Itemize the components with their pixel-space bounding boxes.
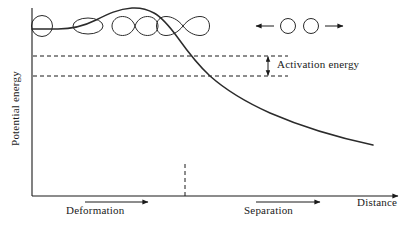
shape-separated-pair-icon bbox=[256, 19, 343, 34]
potential-energy-figure: Potential energy Distance Activation ene… bbox=[0, 0, 409, 229]
axes bbox=[32, 8, 398, 196]
shape-figure-eight-icon bbox=[157, 17, 210, 36]
x-axis-label: Distance bbox=[357, 197, 397, 208]
y-axis-label: Potential energy bbox=[10, 63, 21, 155]
shape-peanut-icon bbox=[112, 17, 158, 36]
separation-label: Separation bbox=[244, 205, 293, 216]
shape-circle-icon bbox=[32, 16, 53, 37]
figure-canvas bbox=[0, 0, 409, 229]
deformation-label: Deformation bbox=[66, 205, 124, 216]
reference-lines bbox=[33, 56, 288, 198]
activation-energy-label: Activation energy bbox=[277, 59, 359, 70]
